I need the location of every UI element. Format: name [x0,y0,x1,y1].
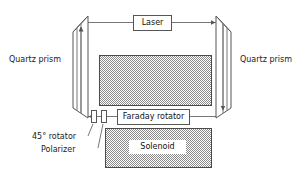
quartz-prism-left-shape [73,16,88,118]
quartz-prism-right-label: Quartz prism [240,56,292,64]
polarizer-label: Polarizer [41,146,75,154]
faraday-rotator-label-box: Faraday rotator [117,109,190,125]
quartz-prism-right-shape [216,16,231,118]
rotator-45-element [92,111,97,123]
figure-canvas: Quartz prism Quartz prism Laser Faraday … [0,0,308,182]
rotator-45-label: 45° rotator [32,133,76,141]
leader-lines [88,124,103,148]
upper-hatched-block [100,56,212,106]
laser-label-box: Laser [133,15,172,31]
quartz-prism-left-label: Quartz prism [9,56,61,64]
polarizer-element [102,111,107,123]
solenoid-label: Solenoid [129,140,186,154]
